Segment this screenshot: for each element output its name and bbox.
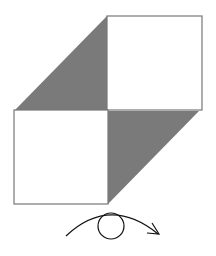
upper-shaded-triangle xyxy=(15,16,107,110)
folded-squares-diagram xyxy=(0,0,216,256)
lower-shaded-triangle xyxy=(108,111,199,204)
top-right-square xyxy=(107,16,202,110)
arrowhead-icon xyxy=(147,223,159,234)
rotation-arrow-icon xyxy=(66,215,158,236)
bottom-left-square xyxy=(14,110,108,204)
eye-circle-icon xyxy=(98,213,124,239)
